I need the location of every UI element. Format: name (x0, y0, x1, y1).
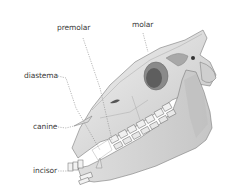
label-premolar: premolar (57, 23, 90, 32)
leader-molar (143, 33, 148, 52)
label-molar: molar (132, 20, 153, 29)
horse-skull-diagram: premolar molar diastema canine incisor (0, 0, 229, 192)
label-incisor: incisor (33, 166, 57, 175)
skull-illustration (0, 0, 229, 192)
leader-canine (58, 126, 74, 128)
label-canine: canine (33, 122, 57, 131)
label-diastema: diastema (24, 71, 58, 80)
